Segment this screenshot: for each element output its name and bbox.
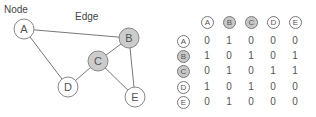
matrix-cell: 1	[221, 95, 237, 109]
column-header-a: A	[201, 16, 214, 29]
matrix-cell: 1	[243, 49, 259, 63]
matrix-cell: 0	[243, 34, 259, 48]
matrix-cell: 0	[287, 80, 303, 94]
matrix-cell: 0	[243, 95, 259, 109]
matrix-cell: 0	[199, 34, 215, 48]
column-header-e: E	[289, 16, 302, 29]
row-header-c: C	[177, 65, 190, 78]
adjacency-matrix: ABCDEA01000B10101C01011D10100E01000	[0, 0, 316, 117]
matrix-cell: 0	[199, 64, 215, 78]
matrix-cell: 0	[265, 95, 281, 109]
matrix-cell: 1	[265, 64, 281, 78]
matrix-cell: 0	[199, 95, 215, 109]
row-header-b: B	[177, 50, 190, 63]
matrix-cell: 1	[199, 80, 215, 94]
matrix-cell: 0	[287, 95, 303, 109]
matrix-cell: 0	[265, 34, 281, 48]
matrix-cell: 0	[287, 34, 303, 48]
row-header-e: E	[177, 96, 190, 109]
matrix-cell: 0	[265, 49, 281, 63]
matrix-cell: 1	[287, 64, 303, 78]
matrix-cell: 0	[243, 64, 259, 78]
row-header-d: D	[177, 81, 190, 94]
matrix-cell: 1	[199, 49, 215, 63]
matrix-cell: 1	[287, 49, 303, 63]
matrix-cell: 1	[221, 34, 237, 48]
column-header-b: B	[223, 16, 236, 29]
matrix-cell: 0	[265, 80, 281, 94]
matrix-cell: 0	[221, 80, 237, 94]
matrix-cell: 1	[243, 80, 259, 94]
column-header-d: D	[267, 16, 280, 29]
row-header-a: A	[177, 35, 190, 48]
column-header-c: C	[245, 16, 258, 29]
matrix-cell: 1	[221, 64, 237, 78]
matrix-cell: 0	[221, 49, 237, 63]
